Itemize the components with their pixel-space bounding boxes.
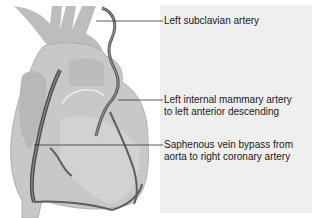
label-line: Saphenous vein bypass from	[164, 139, 293, 151]
label-line: Left internal mammary artery	[164, 94, 292, 106]
label-left-subclavian-artery: Left subclavian artery	[164, 15, 259, 27]
label-line: aorta to right coronary artery	[164, 151, 293, 163]
label-lima-to-lad: Left internal mammary artery to left ant…	[164, 94, 292, 118]
pulmonary-trunk	[68, 58, 104, 86]
label-line: Left subclavian artery	[164, 15, 259, 27]
label-line: to left anterior descending	[164, 106, 292, 118]
label-svg-to-rca: Saphenous vein bypass from aorta to righ…	[164, 139, 293, 163]
